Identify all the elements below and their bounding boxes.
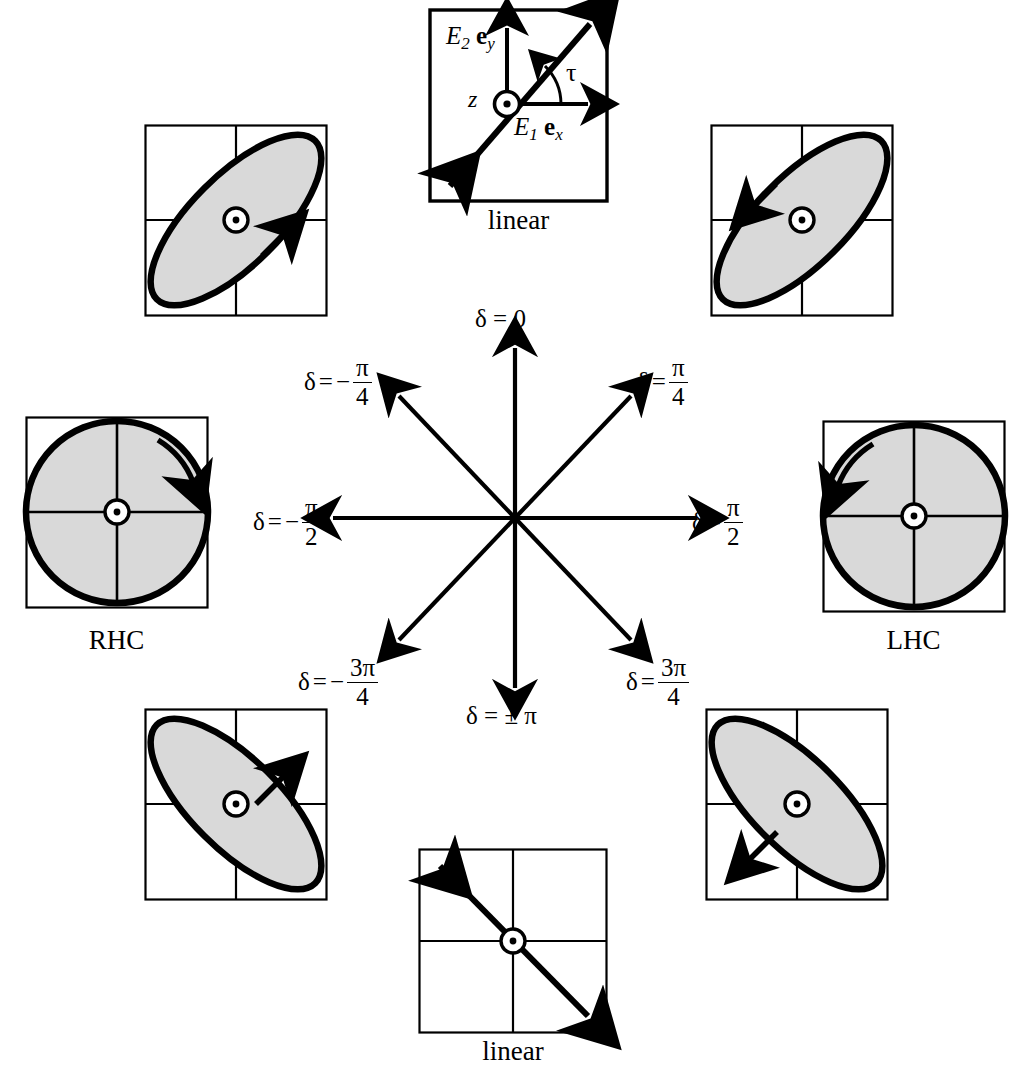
delta-symbol: δ xyxy=(253,508,265,536)
minus-symbol: − xyxy=(285,508,299,536)
numerator: 3π xyxy=(347,655,378,683)
delta-pm-pi-text: δ = ± π xyxy=(466,702,537,730)
fraction-3pi-over-4: 3π 4 xyxy=(658,655,689,710)
fraction-pi-over-4: π 4 xyxy=(353,355,372,410)
equals-symbol: = xyxy=(707,508,721,536)
delta-symbol: δ xyxy=(304,368,316,396)
denominator: 4 xyxy=(667,683,680,710)
numerator: 3π xyxy=(658,655,689,683)
fraction-pi-over-2: π 2 xyxy=(302,495,321,550)
denominator: 4 xyxy=(672,383,685,410)
star-arm-delta-neg-pi-over-4 xyxy=(399,396,515,518)
star-arm-delta-pi-over-4 xyxy=(515,396,631,518)
label-delta-pi-over-2: δ = π 2 xyxy=(692,495,743,550)
label-delta-neg-pi-over-4: δ = − π 4 xyxy=(304,355,372,410)
phase-star-diagram xyxy=(0,0,1031,1076)
minus-symbol: − xyxy=(330,668,344,696)
numerator: π xyxy=(353,355,372,383)
delta-0-text: δ = 0 xyxy=(475,305,526,333)
fraction-pi-over-2: π 2 xyxy=(724,495,743,550)
fraction-pi-over-4: π 4 xyxy=(669,355,688,410)
equals-symbol: = xyxy=(641,668,655,696)
label-delta-3pi-over-4: δ = 3π 4 xyxy=(626,655,689,710)
denominator: 4 xyxy=(356,383,369,410)
delta-symbol: δ xyxy=(637,368,649,396)
equals-symbol: = xyxy=(268,508,282,536)
fraction-3pi-over-4: 3π 4 xyxy=(347,655,378,710)
delta-symbol: δ xyxy=(692,508,704,536)
numerator: π xyxy=(669,355,688,383)
minus-symbol: − xyxy=(336,368,350,396)
polarization-figure: E2 ey E1 ex z τ linear xyxy=(0,0,1031,1076)
denominator: 2 xyxy=(305,523,318,550)
denominator: 2 xyxy=(727,523,740,550)
delta-symbol: δ xyxy=(298,668,310,696)
numerator: π xyxy=(724,495,743,523)
star-arm-delta-neg-3pi-over-4 xyxy=(399,518,515,640)
equals-symbol: = xyxy=(313,668,327,696)
delta-symbol: δ xyxy=(626,668,638,696)
label-delta-pi-over-4: δ = π 4 xyxy=(637,355,688,410)
label-delta-neg-3pi-over-4: δ = − 3π 4 xyxy=(298,655,378,710)
denominator: 4 xyxy=(356,683,369,710)
numerator: π xyxy=(302,495,321,523)
label-delta-0: δ = 0 xyxy=(475,305,526,333)
star-arm-delta-3pi-over-4 xyxy=(515,518,631,640)
label-delta-neg-pi-over-2: δ = − π 2 xyxy=(253,495,321,550)
equals-symbol: = xyxy=(319,368,333,396)
label-delta-plus-minus-pi: δ = ± π xyxy=(466,702,537,730)
equals-symbol: = xyxy=(652,368,666,396)
